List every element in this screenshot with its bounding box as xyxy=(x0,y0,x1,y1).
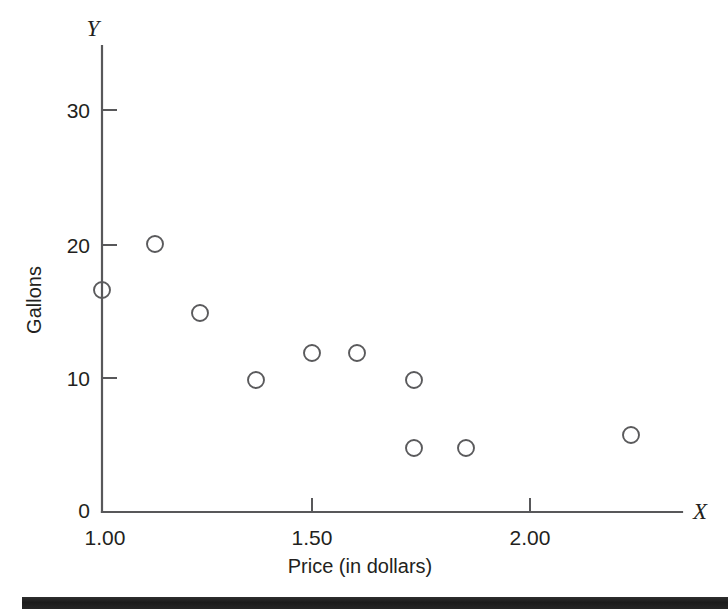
scatter-plot-figure: Y X 30 20 10 0 1.00 1.50 2.00 xyxy=(0,0,728,611)
x-tick-group: 1.00 1.50 2.00 xyxy=(85,498,551,549)
x-tick-label-1-00: 1.00 xyxy=(85,526,126,549)
y-axis-group: Y xyxy=(87,16,102,512)
page-footer-bar xyxy=(22,597,728,609)
y-tick-label-0: 0 xyxy=(78,499,90,522)
data-point xyxy=(304,345,320,361)
data-point-group xyxy=(94,236,639,456)
y-tick-label-10: 10 xyxy=(67,367,90,390)
x-tick-label-2-00: 2.00 xyxy=(510,526,551,549)
data-point xyxy=(406,372,422,388)
x-axis-title: Price (in dollars) xyxy=(288,555,432,577)
data-point xyxy=(349,345,365,361)
data-point xyxy=(147,236,163,252)
data-point xyxy=(192,305,208,321)
x-axis-name-label: X xyxy=(692,499,708,524)
data-point xyxy=(623,427,639,443)
data-point xyxy=(248,372,264,388)
x-axis-group: X xyxy=(102,499,708,524)
data-point xyxy=(406,440,422,456)
y-tick-label-30: 30 xyxy=(67,99,90,122)
y-tick-group: 30 20 10 0 xyxy=(67,99,117,522)
x-tick-label-1-50: 1.50 xyxy=(292,526,333,549)
y-tick-label-20: 20 xyxy=(67,234,90,257)
scatter-plot-svg: Y X 30 20 10 0 1.00 1.50 2.00 xyxy=(0,0,728,611)
y-axis-title: Gallons xyxy=(23,266,45,334)
data-point xyxy=(458,440,474,456)
y-axis-name-label: Y xyxy=(87,16,102,41)
